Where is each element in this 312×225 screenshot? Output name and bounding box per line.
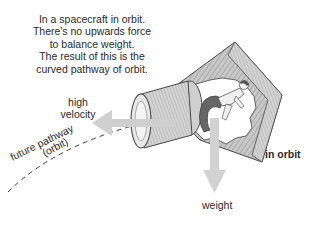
caption-line: curved pathway of orbit. <box>22 63 162 75</box>
orbit-diagram: In a spacecraft in orbit. There's no upw… <box>0 0 312 225</box>
caption-line: There's no upwards force <box>22 25 162 37</box>
caption-line: to balance weight. <box>22 38 162 50</box>
explanation-caption: In a spacecraft in orbit. There's no upw… <box>22 13 162 75</box>
caption-line: In a spacecraft in orbit. <box>22 13 162 25</box>
velocity-label-line1: high <box>52 96 104 108</box>
weight-label: weight <box>202 199 232 211</box>
velocity-label-line2: velocity <box>52 108 104 120</box>
in-orbit-label: in orbit <box>265 148 301 160</box>
caption-line: The result of this is the <box>22 50 162 62</box>
high-velocity-label: high velocity <box>52 96 104 120</box>
